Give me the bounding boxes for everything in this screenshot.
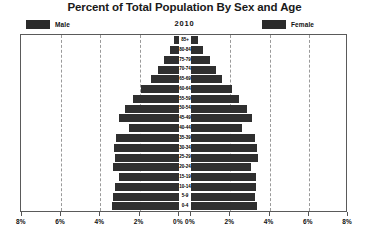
- bar-female: [191, 95, 239, 103]
- bar-female: [191, 75, 222, 83]
- age-group-label: 45-49: [179, 114, 191, 123]
- axis-tick-label: 4%: [256, 218, 282, 225]
- bar-female: [191, 36, 198, 44]
- bar-female: [191, 85, 232, 93]
- axis-tick: [269, 212, 270, 216]
- axis-tick: [21, 212, 22, 216]
- bar-male: [119, 114, 179, 122]
- table-row: 25-29: [21, 153, 346, 163]
- bar-male: [164, 56, 179, 64]
- table-row: 85+: [21, 36, 346, 46]
- table-row: 5-9: [21, 192, 346, 202]
- bar-male: [113, 193, 179, 201]
- age-group-label: 65-69: [179, 75, 191, 84]
- bar-male: [115, 154, 179, 162]
- bar-rows: 85+80-8475-7970-7465-6960-6455-5950-5445…: [21, 35, 346, 211]
- bar-female: [191, 46, 203, 54]
- axis-tick-label: 2%: [126, 218, 152, 225]
- bar-female: [191, 154, 258, 162]
- bar-female: [191, 183, 256, 191]
- bar-female: [191, 124, 242, 132]
- bar-male: [113, 163, 179, 171]
- year-label: 2010: [0, 19, 369, 28]
- age-group-label: 70-74: [179, 65, 191, 74]
- bar-male: [170, 46, 179, 54]
- axis-tick-label: 0%: [177, 218, 203, 225]
- bar-male: [141, 85, 179, 93]
- plot-area: 85+80-8475-7970-7465-6960-6455-5950-5445…: [20, 34, 347, 212]
- axis-tick: [139, 212, 140, 216]
- bar-male: [151, 75, 179, 83]
- bar-female: [191, 193, 255, 201]
- age-group-label: 20-24: [179, 163, 191, 172]
- table-row: 30-34: [21, 143, 346, 153]
- bar-female: [191, 114, 252, 122]
- age-group-label: 50-54: [179, 104, 191, 113]
- bar-male: [129, 124, 179, 132]
- axis-tick: [229, 212, 230, 216]
- axis-tick: [308, 212, 309, 216]
- table-row: 70-74: [21, 65, 346, 75]
- axis-tick-label: 6%: [295, 218, 321, 225]
- table-row: 50-54: [21, 104, 346, 114]
- bar-male: [133, 95, 179, 103]
- bar-male: [112, 202, 179, 210]
- axis-tick: [190, 212, 191, 216]
- bar-female: [191, 202, 257, 210]
- axis-tick: [60, 212, 61, 216]
- x-axis: 8%6%4%2%0%0%2%4%6%8%: [0, 212, 369, 238]
- age-group-label: 75-79: [179, 56, 191, 65]
- age-group-label: 25-29: [179, 153, 191, 162]
- age-group-label: 0-4: [179, 202, 191, 211]
- axis-tick-label: 4%: [86, 218, 112, 225]
- bar-female: [191, 173, 256, 181]
- table-row: 55-59: [21, 94, 346, 104]
- age-group-label: 55-59: [179, 95, 191, 104]
- age-group-label: 80-84: [179, 46, 191, 55]
- bar-female: [191, 56, 210, 64]
- axis-tick: [178, 212, 179, 216]
- age-group-label: 5-9: [179, 192, 191, 201]
- table-row: 0-4: [21, 202, 346, 212]
- table-row: 20-24: [21, 163, 346, 173]
- table-row: 40-44: [21, 124, 346, 134]
- bar-male: [116, 134, 179, 142]
- age-group-label: 35-39: [179, 134, 191, 143]
- axis-tick-label: 8%: [334, 218, 360, 225]
- bar-male: [119, 173, 179, 181]
- bar-female: [191, 105, 247, 113]
- age-group-label: 10-14: [179, 183, 191, 192]
- age-group-label: 30-34: [179, 144, 191, 153]
- axis-tick-label: 8%: [8, 218, 34, 225]
- table-row: 65-69: [21, 75, 346, 85]
- bar-female: [191, 163, 251, 171]
- bar-female: [191, 66, 216, 74]
- bar-male: [114, 144, 179, 152]
- table-row: 60-64: [21, 84, 346, 94]
- bar-male: [115, 183, 179, 191]
- axis-tick-label: 6%: [47, 218, 73, 225]
- table-row: 10-14: [21, 182, 346, 192]
- bar-female: [191, 144, 257, 152]
- page-title: Percent of Total Population By Sex and A…: [0, 1, 369, 13]
- age-group-label: 40-44: [179, 124, 191, 133]
- age-group-label: 15-19: [179, 173, 191, 182]
- bar-male: [158, 66, 179, 74]
- table-row: 45-49: [21, 114, 346, 124]
- population-pyramid-chart: Percent of Total Population By Sex and A…: [0, 0, 369, 238]
- bar-male: [125, 105, 179, 113]
- table-row: 75-79: [21, 55, 346, 65]
- table-row: 15-19: [21, 172, 346, 182]
- axis-tick: [99, 212, 100, 216]
- bar-female: [191, 134, 255, 142]
- table-row: 35-39: [21, 133, 346, 143]
- axis-tick-label: 2%: [216, 218, 242, 225]
- age-group-label: 85+: [179, 36, 191, 45]
- age-group-label: 60-64: [179, 85, 191, 94]
- axis-tick: [347, 212, 348, 216]
- table-row: 80-84: [21, 45, 346, 55]
